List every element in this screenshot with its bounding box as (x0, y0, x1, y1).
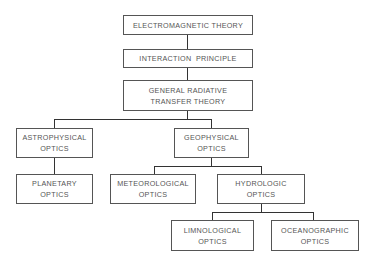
node-label-line1: PLANETARY (32, 178, 77, 189)
node-label-line2: OPTICS (198, 236, 227, 247)
node-hydrologic-optics: HYDROLOGIC OPTICS (217, 174, 305, 204)
connector-to-limno (212, 212, 213, 220)
node-oceanographic-optics: OCEANOGRAPHIC OPTICS (271, 220, 359, 251)
node-label-line1: LIMNOLOGICAL (184, 225, 242, 236)
node-label-line1: METEOROLOGICAL (117, 178, 189, 189)
node-label-line1: GENERAL RADIATIVE (149, 85, 228, 96)
node-label: INTERACTION PRINCIPLE (139, 53, 236, 64)
node-planetary-optics: PLANETARY OPTICS (16, 174, 93, 204)
node-geophysical-optics: GEOPHYSICAL OPTICS (174, 128, 249, 158)
connector-to-meteo (154, 166, 155, 174)
connector-hydro-branch (212, 212, 314, 213)
connector-ip-grt (187, 68, 188, 80)
connector-to-hydro (261, 166, 262, 174)
node-limnological-optics: LIMNOLOGICAL OPTICS (171, 220, 254, 251)
node-label-line2: OPTICS (301, 236, 330, 247)
node-label-line2: OPTICS (197, 143, 226, 154)
node-label-line1: ASTROPHYSICAL (22, 132, 86, 143)
node-interaction-principle: INTERACTION PRINCIPLE (123, 49, 253, 68)
node-electromagnetic-theory: ELECTROMAGNETIC THEORY (123, 15, 253, 35)
node-label-line2: TRANSFER THEORY (151, 96, 226, 107)
connector-to-astro (54, 119, 55, 128)
node-general-radiative-transfer-theory: GENERAL RADIATIVE TRANSFER THEORY (123, 80, 253, 111)
connector-em-ip (187, 35, 188, 49)
connector-geo-down (211, 158, 212, 166)
node-label-line1: HYDROLOGIC (235, 178, 286, 189)
node-label: ELECTROMAGNETIC THEORY (133, 20, 243, 31)
connector-hydro-down (261, 204, 262, 212)
node-label-line2: OPTICS (40, 143, 69, 154)
connector-to-ocean (313, 212, 314, 220)
node-astrophysical-optics: ASTROPHYSICAL OPTICS (16, 128, 93, 158)
node-label-line1: OCEANOGRAPHIC (281, 225, 349, 236)
node-label-line2: OPTICS (40, 189, 69, 200)
node-label-line2: OPTICS (139, 189, 168, 200)
node-label-line1: GEOPHYSICAL (184, 132, 239, 143)
connector-geo-branch (154, 166, 262, 167)
connector-to-geo (211, 119, 212, 128)
connector-astro-planet (54, 158, 55, 174)
node-meteorological-optics: METEOROLOGICAL OPTICS (110, 174, 196, 204)
node-label-line2: OPTICS (247, 189, 276, 200)
connector-grt-branch (54, 119, 212, 120)
connector-grt-down (187, 111, 188, 119)
